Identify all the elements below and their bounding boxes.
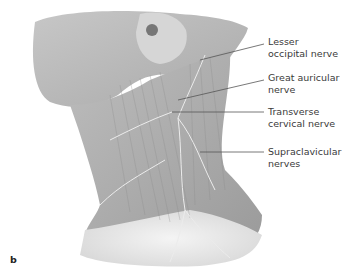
label-line: Lesser bbox=[268, 36, 338, 48]
label-line: nerves bbox=[268, 158, 341, 170]
label-line: nerve bbox=[268, 84, 339, 96]
label-line: Transverse bbox=[268, 106, 335, 118]
label-line: Supraclavicular bbox=[268, 146, 341, 158]
label-line: Great auricular bbox=[268, 72, 339, 84]
label-transverse-cervical-nerve: Transverse cervical nerve bbox=[268, 106, 335, 130]
label-great-auricular-nerve: Great auricular nerve bbox=[268, 72, 339, 96]
label-lesser-occipital-nerve: Lesser occipital nerve bbox=[268, 36, 338, 60]
label-supraclavicular-nerves: Supraclavicular nerves bbox=[268, 146, 341, 170]
label-line: occipital nerve bbox=[268, 48, 338, 60]
label-line: cervical nerve bbox=[268, 118, 335, 130]
panel-label: b bbox=[10, 254, 17, 265]
